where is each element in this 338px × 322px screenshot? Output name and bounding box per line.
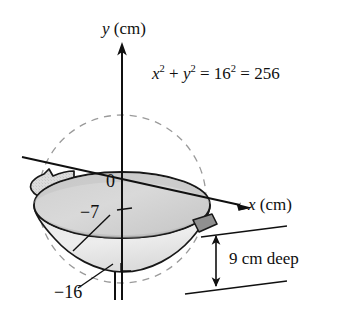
- equation-equals-second: =: [236, 64, 254, 83]
- y-axis-label-unit: (cm): [110, 19, 146, 38]
- circle-equation-label: x2 + y2 = 162 = 256: [152, 64, 280, 82]
- depth-callout-label: 9 cm deep: [229, 250, 299, 267]
- origin-label: 0: [106, 172, 115, 190]
- x-axis-label-unit: (cm): [256, 195, 292, 214]
- hemispherical-bowl-figure: y (cm) x (cm) x2 + y2 = 162 = 256 0 −7 −…: [0, 0, 338, 322]
- figure-vector-graphic: [0, 0, 338, 322]
- y-axis-label: y (cm): [102, 20, 146, 37]
- bottom-label-minus-16: −16: [54, 283, 82, 301]
- equation-result-value: 256: [254, 64, 280, 83]
- equation-plus-operator: +: [165, 64, 183, 83]
- x-axis-label: x (cm): [248, 196, 292, 213]
- y-axis-label-variable: y: [102, 19, 110, 38]
- rim-depth-label-minus-7: −7: [80, 203, 99, 221]
- x-axis-label-variable: x: [248, 195, 256, 214]
- equation-x-variable: x: [152, 64, 160, 83]
- equation-radius-value: 16: [214, 64, 231, 83]
- equation-equals-first: =: [196, 64, 214, 83]
